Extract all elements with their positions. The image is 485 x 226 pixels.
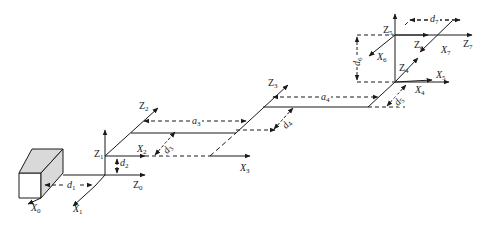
label-d1: d1 [66, 180, 77, 192]
label-a3: a3 [191, 116, 202, 128]
label-z5: Z5 [383, 25, 393, 37]
label-d7: d7 [429, 14, 440, 26]
base-block [19, 149, 63, 198]
label-z7: Z7 [463, 39, 473, 51]
label-x5: X5 [436, 70, 446, 82]
label-z6: Z6 [414, 40, 424, 52]
label-z0: Z0 [133, 180, 143, 192]
label-x0: X0 [31, 203, 41, 215]
kinematic-diagram [0, 0, 485, 226]
axis-z3 [236, 85, 288, 133]
label-z4: Z4 [399, 63, 409, 75]
axis-z2 [105, 108, 158, 156]
label-x1: X1 [73, 204, 83, 216]
label-x3: X3 [240, 163, 250, 175]
label-d2: d2 [120, 158, 129, 170]
label-x2: X2 [137, 144, 147, 156]
label-z1: Z1 [94, 149, 104, 161]
label-d6: d6 [352, 58, 364, 67]
label-z2: Z2 [139, 101, 149, 113]
label-x4: X4 [415, 85, 425, 97]
label-z3: Z3 [268, 78, 278, 90]
label-a4: a4 [320, 92, 331, 104]
label-x6: X6 [377, 52, 387, 64]
label-x7: X7 [441, 45, 451, 57]
